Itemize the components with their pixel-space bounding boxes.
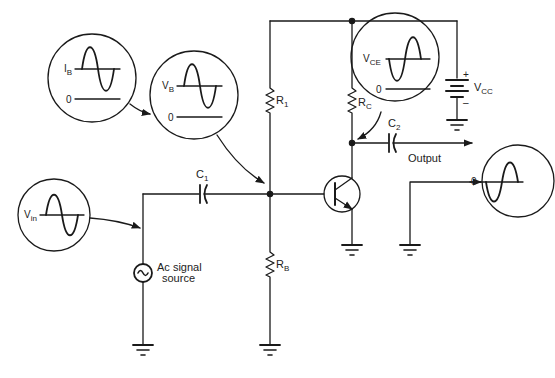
waveform-inset-ib — [48, 34, 150, 122]
npn-transistor-icon — [324, 176, 362, 255]
ground-icon — [342, 245, 362, 255]
ground-icon — [400, 245, 420, 255]
ac-signal-source — [133, 194, 153, 355]
ground-icon — [447, 120, 467, 130]
resistor-r1 — [266, 21, 274, 194]
label-c2: C2 — [388, 118, 400, 132]
label-rb: RB — [276, 259, 289, 273]
output-ground-lead — [400, 182, 481, 255]
top-rail-wire — [270, 18, 457, 23]
label-vcc-minus: – — [463, 98, 469, 108]
label-output: Output — [408, 153, 441, 164]
waveform-inset-output — [480, 145, 554, 217]
inset-vb-zero: 0 — [168, 113, 174, 123]
inset-vce-zero: 0 — [376, 85, 382, 95]
label-r1: R1 — [276, 95, 288, 109]
capacitor-c2 — [352, 134, 472, 152]
label-rc: RC — [358, 97, 372, 111]
inset-ib-zero: 0 — [66, 95, 72, 105]
inset-output-zero: 0 — [471, 177, 477, 187]
inset-vce-label: VCE — [363, 54, 381, 67]
tilde-icon — [138, 271, 148, 276]
amplifier-schematic — [0, 0, 555, 378]
label-ac-source-line2: source — [162, 273, 195, 284]
ground-icon — [133, 345, 153, 355]
inset-vb-label: VB — [162, 81, 174, 94]
inset-vin-label: Vin — [24, 210, 37, 223]
inset-ib-label: IB — [64, 64, 72, 77]
label-c1: C1 — [196, 169, 208, 183]
resistor-rb — [260, 194, 280, 355]
label-vcc-plus: + — [463, 70, 469, 80]
ground-icon — [260, 345, 280, 355]
capacitor-c1 — [143, 185, 270, 203]
label-vcc: VCC — [474, 82, 493, 96]
